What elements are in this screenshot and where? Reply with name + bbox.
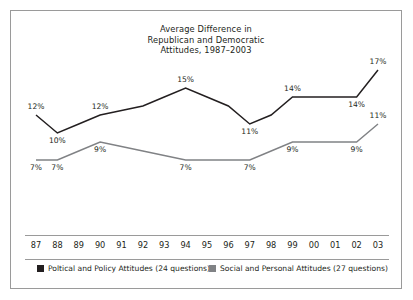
x-tick-94: 94 [175,240,197,250]
data-label-0-16: 17% [370,57,387,66]
chart-figure: Average Difference in Republican and Dem… [10,10,402,289]
data-label-0-0: 12% [28,102,45,111]
x-tick-87: 87 [25,240,47,250]
data-label-1-1: 7% [51,163,63,172]
data-label-1-0: 7% [30,163,42,172]
data-label-0-1: 10% [49,136,66,145]
legend-item-social: Social and Personal Attitudes (27 questi… [209,264,388,273]
data-label-1-10: 7% [244,163,256,172]
x-tick-03: 03 [367,240,389,250]
series-line-0 [36,70,378,133]
x-axis-tick-labels: 8788899091929394959697989900010203 [25,240,389,256]
data-label-1-7: 7% [180,163,192,172]
legend-label-social: Social and Personal Attitudes (27 questi… [220,264,388,273]
series-line-1 [36,124,378,160]
data-label-1-3: 9% [94,145,106,154]
data-label-0-12: 14% [284,84,301,93]
axis-rule-bottom [25,259,389,260]
x-tick-99: 99 [282,240,304,250]
x-tick-97: 97 [239,240,261,250]
data-label-0-15: 14% [348,100,365,109]
data-label-0-7: 15% [177,75,194,84]
chart-legend: Poltical and Policy Attitudes (24 questi… [11,264,403,284]
data-label-0-10: 11% [241,127,258,136]
x-tick-01: 01 [324,240,346,250]
x-tick-89: 89 [68,240,90,250]
data-label-1-16: 11% [370,111,387,120]
data-label-1-15: 9% [351,145,363,154]
x-tick-95: 95 [196,240,218,250]
x-tick-92: 92 [132,240,154,250]
x-tick-93: 93 [153,240,175,250]
data-label-1-12: 9% [286,145,298,154]
axis-rule-top [25,235,389,236]
legend-item-political: Poltical and Policy Attitudes (24 questi… [37,264,210,273]
x-tick-02: 02 [346,240,368,250]
x-tick-96: 96 [217,240,239,250]
legend-swatch-social [209,265,216,272]
legend-swatch-political [37,265,44,272]
data-label-0-3: 12% [92,102,109,111]
x-tick-00: 00 [303,240,325,250]
x-tick-91: 91 [111,240,133,250]
x-tick-90: 90 [89,240,111,250]
legend-label-political: Poltical and Policy Attitudes (24 questi… [48,264,210,273]
x-tick-98: 98 [260,240,282,250]
x-tick-88: 88 [46,240,68,250]
